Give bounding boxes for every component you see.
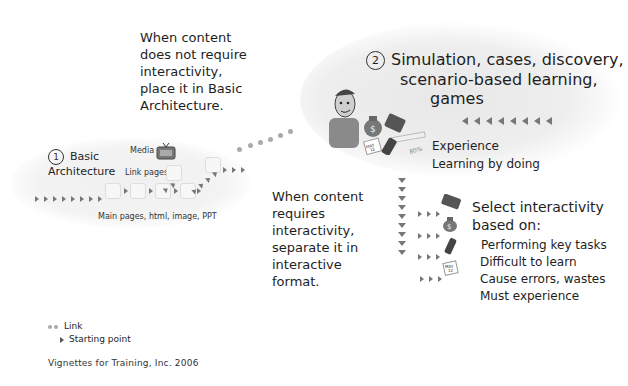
main-page-icon (130, 183, 146, 199)
learner-illustration: $ MAY 12 80% (327, 80, 437, 155)
calendar-icon: MAY 12 (364, 138, 382, 154)
svg-text:$: $ (447, 223, 451, 231)
money-bag-icon: $ (441, 215, 459, 233)
svg-text:$: $ (370, 124, 376, 134)
calendar-icon: MAY12 (442, 259, 460, 277)
svg-text:80%: 80% (408, 145, 423, 155)
link-dot-icon (54, 325, 58, 329)
calculator-icon (440, 194, 462, 210)
link-dot-icon (48, 325, 52, 329)
money-bag-icon: $ (364, 116, 382, 137)
link-pages-label: Link pages (125, 168, 168, 177)
branch-arrows (418, 246, 445, 265)
criterion: Cause errors, wastes (480, 271, 607, 288)
calculator-icon (384, 113, 406, 133)
arrow-chain (223, 159, 250, 178)
note-no-interactivity: When content does not require interactiv… (140, 29, 320, 114)
criterion: Difficult to learn (480, 254, 607, 271)
media-tv-icon (155, 143, 177, 161)
person-icon (329, 89, 359, 148)
svg-text:12: 12 (448, 268, 454, 273)
selection-criteria: Performing key tasks Difficult to learn … (480, 237, 607, 305)
main-pages-label: Main pages, html, image, PPT (98, 212, 217, 221)
starting-point-icon (60, 337, 64, 343)
down-arrow-chain (398, 178, 406, 259)
step-1-marker: 1 (48, 149, 64, 165)
phone-icon (442, 236, 458, 256)
note-requires-interactivity: When content requires interactivity, sep… (272, 188, 382, 290)
step-2-marker: 2 (366, 51, 385, 70)
legend-item-link: Link (48, 320, 131, 333)
section2-subtitle: Experience Learning by doing (432, 137, 540, 173)
criterion: Performing key tasks (481, 237, 607, 254)
selection-title: Select interactivity based on: (472, 198, 604, 234)
main-page-icon (105, 183, 121, 199)
media-label: Media (130, 146, 154, 155)
criterion: Must experience (480, 288, 607, 305)
legend-item-starting-point: Starting point (60, 333, 131, 346)
starting-arrow-chain (35, 188, 107, 207)
legend: Link Starting point (48, 320, 131, 346)
footer-credit: Vignettes for Training, Inc. 2006 (48, 358, 199, 368)
arrow-chain-left (462, 110, 558, 129)
section1-title: 1Basic Architecture (48, 149, 115, 179)
